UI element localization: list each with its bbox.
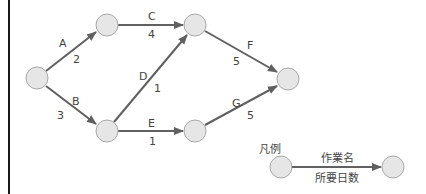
legend-node-end: [382, 156, 404, 178]
edge-e-task: E: [148, 117, 155, 130]
edge-f-task: F: [247, 39, 253, 52]
edge-b-days: 3: [57, 109, 64, 122]
edge-b: B 3: [46, 86, 96, 124]
edge-b-task: B: [72, 95, 80, 108]
edge-f-days: 5: [233, 55, 240, 68]
node-5: [184, 120, 206, 142]
node-2: [96, 14, 118, 36]
network-diagram: A 2 B 3 C 4 D 1 E 1 F 5 G: [0, 0, 426, 194]
node-4: [96, 120, 118, 142]
edge-d-task: D: [139, 70, 147, 83]
edge-a: A 2: [46, 32, 96, 71]
edge-e-days: 1: [149, 135, 156, 148]
edge-a-days: 2: [73, 53, 80, 66]
node-1: [26, 67, 48, 89]
legend-node-start: [270, 156, 292, 178]
edge-c-days: 4: [148, 28, 155, 41]
edge-g-days: 5: [247, 109, 254, 122]
node-3: [184, 14, 206, 36]
edge-c: C 4: [118, 10, 183, 41]
node-6: [277, 68, 299, 90]
edge-d: D 1: [114, 35, 187, 122]
legend-days-label: 所要日数: [315, 172, 359, 185]
legend-task-label: 作業名: [321, 151, 354, 165]
legend-title: 凡例: [259, 142, 281, 156]
edge-g-task: G: [232, 97, 241, 110]
edge-e: E 1: [118, 117, 183, 148]
edge-c-task: C: [148, 10, 156, 23]
edge-d-days: 1: [154, 82, 161, 95]
edge-g: G 5: [205, 86, 277, 125]
edge-f: F 5: [205, 31, 277, 72]
edge-a-task: A: [59, 37, 67, 50]
legend: 凡例 作業名 所要日数: [259, 142, 404, 185]
